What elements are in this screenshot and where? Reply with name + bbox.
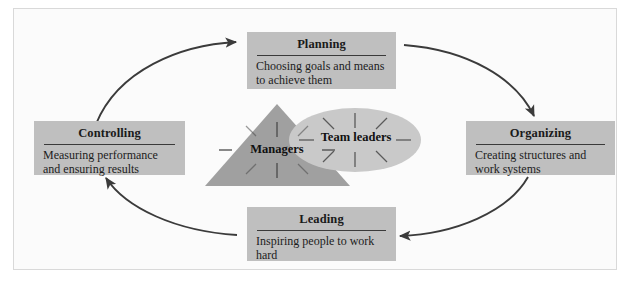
controlling-description: Measuring performance and ensuring resul… (43, 149, 176, 176)
planning-title: Planning (256, 37, 387, 52)
organizing-title: Organizing (475, 126, 606, 141)
function-box-organizing[interactable]: Organizing Creating structures and work … (466, 121, 615, 175)
organizing-description: Creating structures and work systems (475, 149, 606, 176)
controlling-rule (44, 144, 175, 145)
arrow-organizing-to-leading (400, 177, 528, 236)
team-leaders-label: Team leaders (301, 130, 411, 145)
controlling-title: Controlling (43, 126, 176, 141)
leading-title: Leading (256, 212, 387, 227)
diagram-canvas: Managers Team leaders Planning Choosing … (0, 0, 631, 285)
planning-description: Choosing goals and means to achieve them (256, 60, 387, 87)
arrow-controlling-to-planning (96, 42, 236, 124)
arrow-leading-to-controlling (106, 178, 237, 235)
organizing-rule (476, 144, 605, 145)
leading-rule (257, 230, 386, 231)
function-box-planning[interactable]: Planning Choosing goals and means to ach… (247, 32, 396, 89)
leading-description: Inspiring people to work hard (256, 235, 387, 262)
planning-rule (257, 55, 386, 56)
function-box-leading[interactable]: Leading Inspiring people to work hard (247, 207, 396, 261)
arrow-planning-to-organizing (404, 45, 534, 116)
function-box-controlling[interactable]: Controlling Measuring performance and en… (34, 121, 185, 175)
